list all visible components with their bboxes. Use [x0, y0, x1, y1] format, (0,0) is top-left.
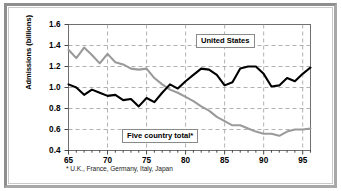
- y-axis-tick-label: 0.6: [37, 125, 61, 134]
- x-axis-tick-label: 80: [174, 156, 198, 165]
- series-label-five-country-total: Five country total*: [122, 129, 198, 143]
- x-axis-tick-label: 85: [213, 156, 237, 165]
- x-axis-tick-label: 95: [291, 156, 315, 165]
- chart-plot-wrapper: Admissions (billions) 0.40.60.81.01.21.4…: [0, 0, 341, 191]
- series-label-united-states: United States: [196, 34, 255, 48]
- x-axis-tick-label: 70: [96, 156, 120, 165]
- y-axis-ticks: [65, 25, 69, 151]
- y-axis-tick-label: 1.2: [37, 62, 61, 71]
- y-axis-tick-label: 1.4: [37, 41, 61, 50]
- x-axis-ticks: [69, 151, 311, 155]
- y-axis-tick-label: 1.0: [37, 83, 61, 92]
- x-axis-tick-label: 75: [135, 156, 159, 165]
- chart-footnote: * U.K., France, Germany, Italy, Japan: [66, 165, 173, 172]
- x-axis-tick-label: 90: [252, 156, 276, 165]
- y-axis-tick-label: 1.6: [37, 20, 61, 29]
- y-axis-tick-label: 0.8: [37, 104, 61, 113]
- figure-container: Admissions (billions) 0.40.60.81.01.21.4…: [0, 0, 341, 191]
- x-axis-tick-label: 65: [57, 156, 81, 165]
- y-axis-tick-label: 0.4: [37, 146, 61, 155]
